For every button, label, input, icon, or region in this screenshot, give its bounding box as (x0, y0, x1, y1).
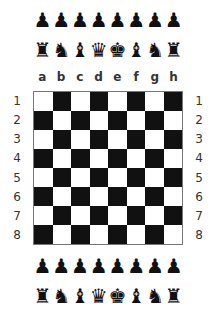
board-square-b7 (53, 206, 72, 225)
board-square-a7 (34, 206, 53, 225)
board-square-e1 (108, 92, 127, 111)
board-square-b4 (53, 149, 72, 168)
board-square-b2 (53, 111, 72, 130)
knight-icon: ♞ (146, 282, 165, 306)
board-square-c3 (71, 130, 90, 149)
file-label: b (52, 70, 71, 86)
rank-label: 4 (10, 149, 24, 168)
rank-label: 4 (192, 149, 206, 168)
pawn-icon: ♟ (127, 6, 146, 30)
board-square-d1 (90, 92, 109, 111)
board-square-f8 (127, 225, 146, 244)
board-square-h3 (164, 130, 183, 149)
rook-icon: ♜ (33, 36, 52, 60)
file-label: d (89, 70, 108, 86)
file-labels: a b c d e f g h (33, 70, 183, 86)
pawn-icon: ♟ (33, 6, 52, 30)
rank-label: 2 (192, 110, 206, 129)
board-square-d3 (90, 130, 109, 149)
board-square-e2 (108, 111, 127, 130)
bishop-icon: ♝ (127, 282, 146, 306)
top-pawn-row: ♟ ♟ ♟ ♟ ♟ ♟ ♟ ♟ (33, 6, 183, 30)
board-square-e3 (108, 130, 127, 149)
board-square-d5 (90, 168, 109, 187)
rank-labels-right: 1 2 3 4 5 6 7 8 (192, 91, 206, 245)
board-square-h1 (164, 92, 183, 111)
board-square-d6 (90, 187, 109, 206)
rank-label: 3 (10, 130, 24, 149)
file-label: e (108, 70, 127, 86)
pawn-icon: ♟ (146, 252, 165, 276)
pawn-icon: ♟ (52, 252, 71, 276)
pawn-icon: ♟ (71, 252, 90, 276)
pawn-icon: ♟ (52, 6, 71, 30)
board-square-a6 (34, 187, 53, 206)
file-label: h (164, 70, 183, 86)
pawn-icon: ♟ (89, 6, 108, 30)
pawn-icon: ♟ (108, 6, 127, 30)
rook-icon: ♜ (164, 36, 183, 60)
rank-label: 2 (10, 110, 24, 129)
pawn-icon: ♟ (108, 252, 127, 276)
knight-icon: ♞ (52, 282, 71, 306)
board-square-h5 (164, 168, 183, 187)
board-square-d8 (90, 225, 109, 244)
board-square-a4 (34, 149, 53, 168)
knight-icon: ♞ (146, 36, 165, 60)
board-square-c4 (71, 149, 90, 168)
board-square-g1 (145, 92, 164, 111)
rank-labels-left: 1 2 3 4 5 6 7 8 (10, 91, 24, 245)
board-square-d7 (90, 206, 109, 225)
rank-label: 6 (10, 187, 24, 206)
knight-icon: ♞ (52, 36, 71, 60)
board-square-b3 (53, 130, 72, 149)
king-icon: ♚ (108, 282, 127, 306)
board-square-c7 (71, 206, 90, 225)
board-square-a8 (34, 225, 53, 244)
file-label: c (71, 70, 90, 86)
board-square-f1 (127, 92, 146, 111)
rank-label: 1 (10, 91, 24, 110)
top-back-rank: ♜ ♞ ♝ ♛ ♚ ♝ ♞ ♜ (33, 36, 183, 60)
file-label: a (33, 70, 52, 86)
bishop-icon: ♝ (71, 36, 90, 60)
bottom-pawn-row: ♟ ♟ ♟ ♟ ♟ ♟ ♟ ♟ (33, 252, 183, 276)
chess-board (33, 91, 183, 245)
file-label: g (146, 70, 165, 86)
board-square-g2 (145, 111, 164, 130)
board-square-e4 (108, 149, 127, 168)
board-square-f4 (127, 149, 146, 168)
board-square-g7 (145, 206, 164, 225)
board-square-a2 (34, 111, 53, 130)
bottom-back-rank: ♜ ♞ ♝ ♛ ♚ ♝ ♞ ♜ (33, 282, 183, 306)
board-square-c8 (71, 225, 90, 244)
board-square-c2 (71, 111, 90, 130)
bishop-icon: ♝ (71, 282, 90, 306)
board-square-c1 (71, 92, 90, 111)
board-square-f3 (127, 130, 146, 149)
king-icon: ♚ (108, 36, 127, 60)
pawn-icon: ♟ (71, 6, 90, 30)
board-square-g4 (145, 149, 164, 168)
board-square-g8 (145, 225, 164, 244)
board-square-a3 (34, 130, 53, 149)
pawn-icon: ♟ (33, 252, 52, 276)
board-square-e6 (108, 187, 127, 206)
board-square-e7 (108, 206, 127, 225)
board-square-f5 (127, 168, 146, 187)
board-square-b8 (53, 225, 72, 244)
board-square-g3 (145, 130, 164, 149)
board-square-g5 (145, 168, 164, 187)
board-square-e8 (108, 225, 127, 244)
board-square-a5 (34, 168, 53, 187)
pawn-icon: ♟ (146, 6, 165, 30)
board-square-d4 (90, 149, 109, 168)
board-square-c5 (71, 168, 90, 187)
board-square-g6 (145, 187, 164, 206)
board-square-f6 (127, 187, 146, 206)
board-square-h6 (164, 187, 183, 206)
rank-label: 5 (192, 168, 206, 187)
board-square-f2 (127, 111, 146, 130)
board-square-d2 (90, 111, 109, 130)
rank-label: 8 (192, 226, 206, 245)
